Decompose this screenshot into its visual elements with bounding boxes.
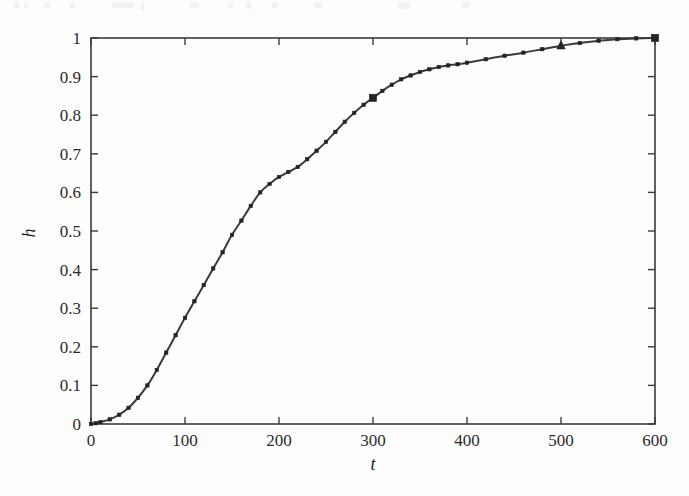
x-tick-label: 200: [266, 431, 292, 450]
highlight-marker-square: [369, 94, 376, 101]
data-point-marker: [400, 78, 403, 81]
data-point-marker: [268, 182, 271, 185]
data-point-marker: [99, 420, 102, 423]
data-point-marker: [165, 351, 168, 354]
data-point-marker: [212, 267, 215, 270]
data-point-marker: [522, 51, 525, 54]
data-point-marker: [616, 37, 619, 40]
data-point-marker: [465, 61, 468, 64]
data-point-marker: [183, 316, 186, 319]
data-point-marker: [390, 83, 393, 86]
data-point-marker: [277, 175, 280, 178]
data-point-marker: [418, 70, 421, 73]
data-point-marker: [127, 406, 130, 409]
x-tick-label: 300: [360, 431, 386, 450]
data-point-marker: [353, 111, 356, 114]
data-point-marker: [334, 130, 337, 133]
figure-root: 0100200300400500600 00.10.20.30.40.50.60…: [0, 0, 689, 496]
data-point-marker: [635, 37, 638, 40]
data-point-marker: [541, 47, 544, 50]
data-point-marker: [306, 158, 309, 161]
y-tick-label: 0.9: [60, 68, 81, 87]
data-point-marker: [324, 140, 327, 143]
y-tick-label: 0.5: [60, 222, 81, 241]
x-tick-label: 600: [642, 431, 668, 450]
highlight-marker-square: [651, 34, 658, 41]
y-tick-label: 0.8: [60, 106, 81, 125]
y-tick-label: 0.6: [60, 183, 81, 202]
data-point-marker: [202, 283, 205, 286]
data-point-marker: [221, 251, 224, 254]
data-point-marker: [259, 191, 262, 194]
chart-canvas: 0100200300400500600 00.10.20.30.40.50.60…: [0, 0, 689, 496]
data-point-marker: [578, 41, 581, 44]
x-tick-label: 500: [548, 431, 574, 450]
data-point-marker: [136, 396, 139, 399]
data-point-marker: [343, 120, 346, 123]
x-axis-title: t: [370, 454, 376, 474]
data-point-marker: [484, 58, 487, 61]
data-point-marker: [296, 165, 299, 168]
data-point-marker: [428, 68, 431, 71]
y-axis-title: h: [19, 229, 39, 238]
data-point-marker: [193, 300, 196, 303]
data-point-marker: [89, 422, 92, 425]
data-point-marker: [108, 418, 111, 421]
data-point-marker: [94, 422, 97, 425]
x-tick-label: 0: [87, 431, 96, 450]
data-point-marker: [437, 65, 440, 68]
y-tick-label: 0: [73, 415, 82, 434]
data-point-marker: [118, 413, 121, 416]
y-tick-label: 0.7: [60, 145, 82, 164]
y-tick-label: 0.1: [60, 376, 81, 395]
data-point-marker: [146, 384, 149, 387]
highlight-markers: [369, 34, 658, 101]
data-point-marker: [381, 89, 384, 92]
x-tick-label: 400: [454, 431, 480, 450]
data-point-marker: [315, 149, 318, 152]
data-point-marker: [409, 74, 412, 77]
y-tick-label: 1: [73, 29, 82, 48]
y-tick-label: 0.2: [60, 338, 81, 357]
y-tick-label: 0.4: [60, 261, 82, 280]
data-point-marker: [174, 334, 177, 337]
data-point-marker: [155, 368, 158, 371]
data-point-marker: [249, 204, 252, 207]
x-tick-label: 100: [172, 431, 198, 450]
data-point-marker: [287, 170, 290, 173]
y-tick-label: 0.3: [60, 299, 81, 318]
data-point-marker: [230, 233, 233, 236]
data-point-marker: [447, 64, 450, 67]
data-point-marker: [597, 39, 600, 42]
data-series-group: [89, 34, 658, 425]
data-point-marker: [362, 103, 365, 106]
data-point-marker: [456, 63, 459, 66]
y-axis-tick-labels: 00.10.20.30.40.50.60.70.80.91: [60, 29, 82, 434]
data-point-marker: [240, 219, 243, 222]
x-axis-tick-labels: 0100200300400500600: [87, 431, 668, 450]
data-point-marker: [503, 54, 506, 57]
